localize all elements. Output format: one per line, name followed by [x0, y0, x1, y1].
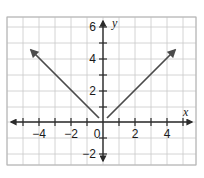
y-tick-label-2: 2: [89, 84, 96, 98]
x-tick-label-minus-4: −4: [32, 127, 46, 141]
origin-label: 0: [94, 127, 101, 141]
x-tick-label-4: 4: [164, 127, 171, 141]
x-tick-label-2: 2: [132, 127, 139, 141]
graph-canvas: 6 4 2 −2 −4 −2 2 4 0 y x: [0, 0, 204, 178]
coordinate-plane-figure: 6 4 2 −2 −4 −2 2 4 0 y x: [0, 0, 204, 178]
y-tick-label-4: 4: [89, 52, 96, 66]
y-tick-label-6: 6: [89, 20, 96, 34]
y-tick-label-minus-2: −2: [82, 147, 96, 161]
x-tick-label-minus-2: −2: [64, 127, 78, 141]
y-axis-label: y: [111, 16, 118, 30]
x-axis-label: x: [182, 105, 189, 119]
